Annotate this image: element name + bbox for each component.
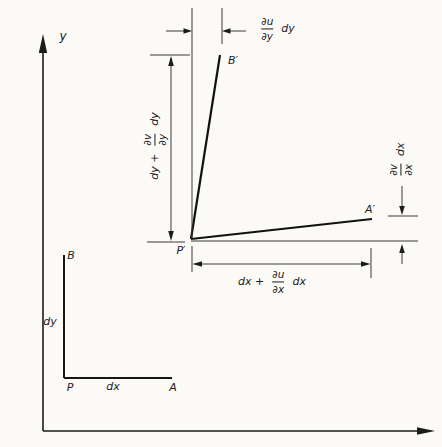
point-a-prime-label: A′ [365, 204, 375, 215]
bottom-dim-right-arrowhead-icon [361, 261, 371, 267]
left-dim-top-arrowhead-icon [168, 56, 174, 66]
y-axis-arrowhead-icon [39, 34, 47, 53]
left-dim-bottom-arrowhead-icon [168, 231, 174, 241]
right-dim-up-arrowhead-icon [399, 244, 405, 253]
point-p-label: P [67, 382, 74, 393]
deformed-pa-line [191, 219, 372, 239]
point-b-label: B [67, 250, 75, 261]
top-dim-left-arrowhead-icon [184, 28, 193, 34]
right-dim-down-arrowhead-icon [399, 206, 405, 215]
dx-side-label: dx [106, 381, 120, 392]
top-dim-label: ∂u ∂y dy [259, 15, 295, 42]
top-dim-fraction: ∂u ∂y [259, 15, 275, 42]
bottom-dim-fraction: ∂u ∂x [270, 268, 286, 295]
y-axis-label: y [59, 30, 66, 42]
dy-side-label: dy [43, 316, 57, 327]
point-a-label: A [169, 382, 177, 393]
deformed-pb-line [191, 55, 220, 239]
right-dim-fraction: ∂v ∂x [387, 162, 414, 178]
bottom-dim-left-arrowhead-icon [193, 261, 203, 267]
top-dim-right-arrowhead-icon [222, 28, 231, 34]
left-dim-label: dy + ∂v ∂y dy [141, 112, 168, 179]
point-b-prime-label: B′ [228, 55, 238, 66]
deformation-diagram: y B dy P dx A P′ B′ A′ ∂u ∂y dy dy + ∂v … [0, 0, 442, 447]
right-dim-label: ∂v ∂x dx [387, 142, 414, 177]
left-dim-fraction: ∂v ∂y [141, 132, 168, 148]
point-p-prime-label: P′ [176, 245, 185, 256]
x-axis-arrowhead-icon [417, 427, 435, 434]
bottom-dim-label: dx + ∂u ∂x dx [238, 268, 306, 295]
